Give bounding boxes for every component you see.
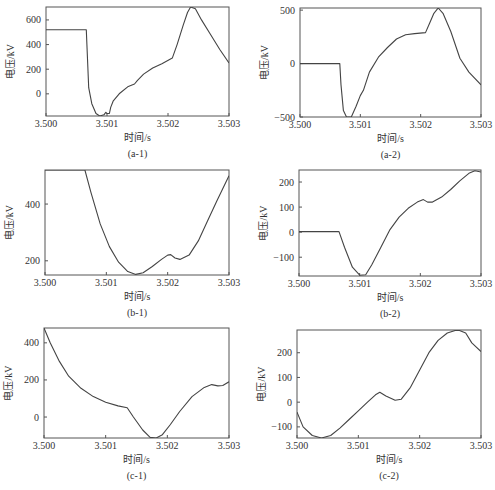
x-axis-label: 时间/s (124, 290, 151, 302)
voltage-series-line (300, 8, 481, 117)
x-tick-label: 3.502 (409, 119, 432, 130)
y-tick-label: 0 (36, 88, 41, 99)
voltage-series-line (297, 331, 481, 439)
x-tick-label: 3.503 (470, 440, 493, 451)
voltage-series-line (45, 170, 229, 274)
y-axis-label: 电压/kV (4, 43, 16, 79)
x-tick-label: 3.502 (156, 277, 179, 288)
plot-frame (45, 170, 229, 275)
x-tick-label: 3.501 (347, 440, 370, 451)
voltage-series-line (299, 171, 481, 275)
y-axis-label: 电压/kV (258, 44, 270, 80)
subplot-c-1: 3.5003.5013.5023.5030200400电压/kV时间/s(c-1… (2, 328, 240, 482)
y-tick-label: 0 (34, 412, 39, 423)
plot-frame (46, 7, 229, 116)
y-tick-label: 400 (26, 39, 41, 50)
subplot-b-2: 3.5003.5013.5023.503−1000100200电压/kV时间/s… (257, 170, 492, 320)
y-tick-label: 400 (25, 199, 40, 210)
voltage-series-line (46, 7, 229, 116)
subplot-caption: (a-2) (381, 149, 400, 161)
y-tick-label: 200 (277, 347, 292, 358)
y-axis-label: 电压/kV (2, 365, 14, 401)
x-tick-label: 3.503 (218, 440, 241, 451)
y-axis-label: 电压/kV (257, 205, 269, 241)
x-tick-label: 3.501 (95, 277, 118, 288)
x-tick-label: 3.502 (157, 118, 180, 129)
x-tick-label: 3.501 (94, 440, 117, 451)
x-tick-label: 3.503 (470, 278, 493, 289)
x-tick-label: 3.503 (218, 118, 241, 129)
y-axis-label: 电压/kV (3, 204, 15, 240)
x-axis-label: 时间/s (377, 132, 404, 144)
y-tick-label: 100 (279, 202, 294, 213)
y-tick-label: −100 (273, 252, 294, 263)
x-tick-label: 3.502 (408, 440, 431, 451)
x-tick-label: 3.503 (218, 277, 241, 288)
x-axis-label: 时间/s (123, 453, 150, 465)
y-tick-label: −100 (271, 421, 292, 432)
plot-frame (300, 8, 481, 117)
x-tick-label: 3.500 (35, 118, 58, 129)
y-tick-label: 500 (280, 5, 295, 16)
x-tick-label: 3.503 (470, 119, 493, 130)
y-tick-label: 200 (25, 255, 40, 266)
subplot-a-2: 3.5003.5013.5023.503−5000500电压/kV时间/s(a-… (258, 5, 492, 161)
x-axis-label: 时间/s (377, 291, 404, 303)
voltage-series-line (44, 328, 229, 438)
subplot-a-1: 3.5003.5013.5023.5030200400600电压/kV时间/s(… (4, 7, 240, 160)
x-tick-label: 3.500 (33, 440, 56, 451)
y-tick-label: 0 (289, 227, 294, 238)
x-tick-label: 3.500 (286, 440, 309, 451)
x-tick-label: 3.502 (156, 440, 179, 451)
subplot-caption: (c-2) (379, 470, 398, 482)
subplot-caption: (b-2) (380, 308, 400, 320)
x-tick-label: 3.501 (96, 118, 119, 129)
y-tick-label: −500 (274, 112, 295, 123)
y-tick-label: 200 (24, 374, 39, 385)
x-axis-label: 时间/s (376, 453, 403, 465)
figure-canvas: 3.5003.5013.5023.5030200400600电压/kV时间/s(… (0, 0, 495, 490)
subplot-c-2: 3.5003.5013.5023.503−1000100200电压/kV时间/s… (255, 330, 492, 482)
y-tick-label: 0 (287, 397, 292, 408)
y-axis-label: 电压/kV (255, 366, 267, 402)
subplot-caption: (c-1) (127, 470, 146, 482)
y-tick-label: 200 (279, 177, 294, 188)
y-tick-label: 600 (26, 14, 41, 25)
x-tick-label: 3.502 (409, 278, 432, 289)
plot-frame (297, 330, 481, 438)
x-tick-label: 3.500 (288, 278, 311, 289)
subplot-caption: (a-1) (128, 148, 147, 160)
x-tick-label: 3.500 (34, 277, 57, 288)
subplot-caption: (b-1) (127, 307, 147, 319)
x-tick-label: 3.501 (349, 119, 372, 130)
y-tick-label: 0 (290, 58, 295, 69)
y-tick-label: 200 (26, 64, 41, 75)
subplot-b-1: 3.5003.5013.5023.503200400电压/kV时间/s(b-1) (3, 170, 240, 319)
y-tick-label: 100 (277, 372, 292, 383)
x-axis-label: 时间/s (124, 131, 151, 143)
y-tick-label: 400 (24, 337, 39, 348)
x-tick-label: 3.501 (348, 278, 371, 289)
